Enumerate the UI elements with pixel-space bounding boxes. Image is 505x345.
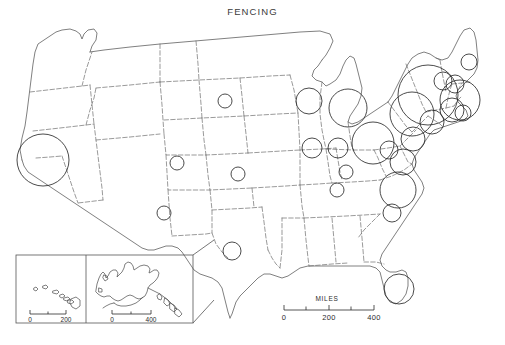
symbol-circle-virginia xyxy=(390,149,416,175)
scale-bar-title: MILES xyxy=(315,295,338,302)
symbol-circle-new-mexico xyxy=(157,206,171,220)
symbol-circle-ohio xyxy=(352,122,394,164)
symbol-circle-florida xyxy=(384,274,414,304)
scale-tick-0: 0 xyxy=(282,313,287,322)
symbol-circle-wisconsin xyxy=(296,88,322,114)
hawaii-inset: 0 200 xyxy=(28,285,80,323)
symbol-circle-texas xyxy=(223,242,241,260)
alaska-scale-tick-400: 400 xyxy=(146,316,157,323)
symbol-circle-kansas xyxy=(231,167,245,181)
symbol-circle-north-carolina xyxy=(380,172,416,208)
symbol-circle-california xyxy=(17,134,69,186)
alaska-scale-tick-0: 0 xyxy=(110,316,114,323)
inset-panel: 0 200 0 400 xyxy=(16,240,214,323)
inset-outer-frame xyxy=(16,255,193,323)
symbol-circle-kentucky xyxy=(339,165,353,179)
hawaii-scale-tick-200: 200 xyxy=(61,316,72,323)
us-map: MILES 0 200 400 xyxy=(0,0,505,345)
scale-tick-200: 200 xyxy=(322,313,336,322)
symbol-circle-tennessee xyxy=(330,183,344,197)
symbol-circle-illinois xyxy=(302,138,322,158)
hawaii-scale-tick-0: 0 xyxy=(28,316,32,323)
state-borders-group xyxy=(30,41,470,268)
scale-tick-400: 400 xyxy=(367,313,381,322)
inset-leader-line-lower xyxy=(193,300,214,323)
symbol-circles-group xyxy=(17,54,480,304)
scale-bar: MILES 0 200 400 xyxy=(282,295,381,322)
alaska-inset: 0 400 xyxy=(96,262,182,323)
map-page: FENCING xyxy=(0,0,505,345)
inset-leader-line xyxy=(193,240,214,255)
symbol-circle-vermont xyxy=(434,72,452,90)
symbol-circle-maine xyxy=(461,54,477,70)
symbol-circle-colorado xyxy=(170,156,184,170)
symbol-circle-south-dakota xyxy=(218,94,232,108)
symbol-circle-indiana xyxy=(328,138,348,158)
